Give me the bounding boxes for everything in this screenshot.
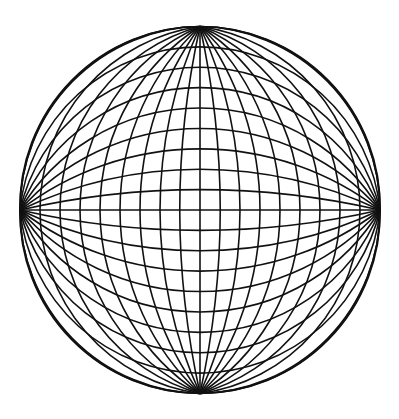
cropped-caption-text bbox=[20, 412, 390, 419]
globular-graticule-diagram bbox=[0, 0, 399, 419]
